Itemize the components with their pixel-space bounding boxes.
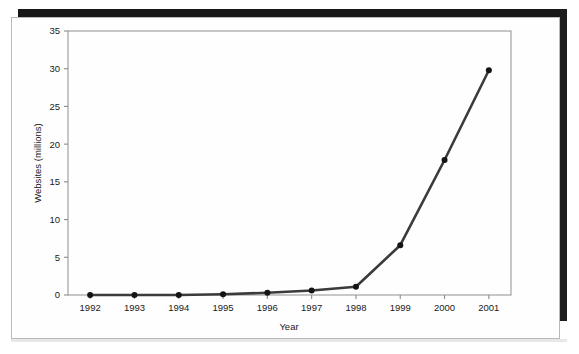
data-point-marker — [309, 287, 315, 293]
data-series-websites — [87, 67, 492, 298]
y-tick-label: 35 — [49, 25, 60, 36]
x-tick-label: 1996 — [257, 302, 278, 313]
scanned-page: 05101520253035 1992199319941995199619971… — [0, 0, 579, 354]
y-axis: 05101520253035 — [49, 25, 68, 300]
x-axis-title: Year — [279, 321, 298, 332]
x-tick-label: 1992 — [80, 302, 101, 313]
y-tick-label: 5 — [55, 252, 60, 263]
data-point-marker — [176, 292, 182, 298]
plot-area-frame — [68, 31, 511, 295]
data-point-marker — [264, 290, 270, 296]
data-point-marker — [486, 67, 492, 73]
data-point-marker — [220, 291, 226, 297]
x-tick-label: 1999 — [390, 302, 411, 313]
x-tick-label: 1997 — [301, 302, 322, 313]
data-point-marker — [87, 292, 93, 298]
data-point-marker — [397, 242, 403, 248]
y-tick-label: 0 — [55, 289, 60, 300]
x-tick-label: 1994 — [168, 302, 189, 313]
y-tick-label: 30 — [49, 63, 60, 74]
x-tick-label: 1995 — [212, 302, 233, 313]
x-tick-label: 2001 — [478, 302, 499, 313]
plot-rect — [68, 31, 511, 295]
data-point-marker — [442, 157, 448, 163]
data-point-marker — [131, 292, 137, 298]
x-tick-label: 1993 — [124, 302, 145, 313]
x-axis: 1992199319941995199619971998199920002001 — [80, 295, 500, 313]
data-point-marker — [353, 284, 359, 290]
y-tick-label: 20 — [49, 139, 60, 150]
chart-canvas: 05101520253035 1992199319941995199619971… — [0, 0, 579, 354]
x-tick-label: 2000 — [434, 302, 455, 313]
y-tick-label: 15 — [49, 176, 60, 187]
y-axis-title: Websites (millions) — [32, 123, 43, 203]
y-tick-label: 25 — [49, 101, 60, 112]
series-polyline — [90, 70, 489, 295]
line-chart: 05101520253035 1992199319941995199619971… — [0, 0, 579, 354]
y-tick-label: 10 — [49, 214, 60, 225]
x-tick-label: 1998 — [345, 302, 366, 313]
